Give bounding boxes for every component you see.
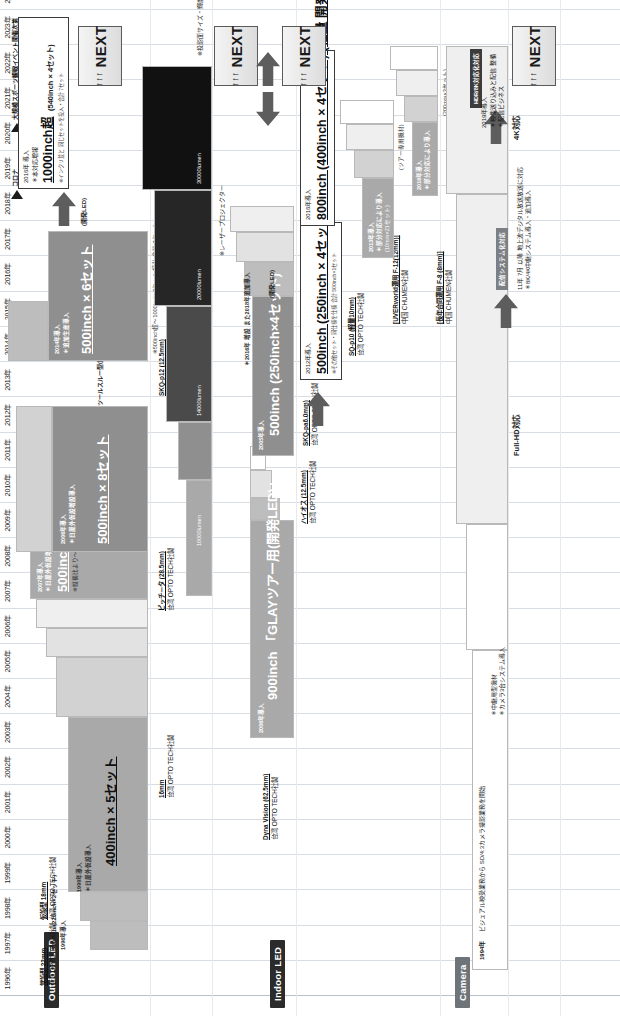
indoor-spec-p10: SQ-p10 (軽量10mm) 台湾 OPTO TECH社製 — [348, 293, 366, 356]
year-label-2000年: 2000年 — [2, 827, 12, 849]
projector-lumen-3: 20000lumen — [196, 269, 204, 300]
callout-indoor-500: 2012年導入 500inch (250inch × 4セット) (開発LED)… — [300, 222, 342, 380]
bar-indoor-500dev-c — [236, 232, 294, 262]
next-box-projector[interactable]: ↑↑↑ NEXT — [214, 26, 258, 86]
bar-outdoor-5 — [46, 628, 148, 657]
bar-outdoor-500x8-bg — [16, 406, 52, 552]
indoor-spec-dyna-vendor: 台湾 OPTO TECH社製 — [271, 774, 280, 840]
bar-outdoor-500x8-note: ＊日屋外仮設増設導入 — [69, 484, 77, 544]
indoor-spec-haios-vendor: 台湾 OPTO TECH社製 — [309, 461, 318, 524]
projector-lumen-2: 14000lumen — [196, 385, 204, 416]
year-label-2005年: 2005年 — [2, 650, 12, 672]
year-label-2016年: 2016年 — [2, 263, 12, 285]
indoor-spec-f8-vendor: 中国 CHUMEN社製 — [445, 251, 454, 324]
year-label-1997年: 1997年 — [2, 932, 12, 954]
bar-indoor-f12-d — [340, 100, 394, 124]
bar-indoor-500dev-subtitle: (開発LED) — [268, 270, 276, 298]
camera-distribution-chip: 配信システム化対応 — [496, 228, 508, 290]
next-arrows-projector-icon: ↑↑↑ — [232, 72, 240, 87]
bar-indoor-f8-note: ＊部分対応により導入 — [424, 130, 432, 190]
row-separator-4 — [508, 0, 509, 1016]
year-label-2024年: 2024年 — [2, 0, 12, 3]
bar-projector-10000 — [178, 422, 212, 480]
callout-indoor-500-year: 2012年導入 — [304, 228, 313, 374]
bar-indoor-f12-tiny: (10mm×21セット) — [384, 205, 392, 252]
next-box-outdoor[interactable]: ↑↑↑ NEXT — [78, 26, 122, 86]
year-label-2017年: 2017年 — [2, 228, 12, 250]
next-arrows-indoor-icon: ↑↑↑ — [300, 72, 308, 87]
indoor-spec-haios: ハイオス (12.5mm) 台湾 OPTO TECH社製 — [300, 461, 318, 524]
next-label-camera: NEXT — [526, 25, 543, 67]
bar-camera-hd — [466, 524, 508, 650]
camera-4k-label: 4K対応 — [512, 116, 523, 140]
bar-outdoor-500x6-title: 500inch × 6セット — [76, 245, 95, 354]
bar-outdoor-1-label: 350inch (220inch×2セット) — [50, 875, 58, 950]
bar-outdoor-400-year: 1999年導入 — [76, 862, 84, 892]
bar-indoor-f8-year: 2016年導入 — [416, 160, 424, 190]
bar-outdoor-400-title: 400inch × 5セット — [100, 757, 119, 866]
indoor-spec-p10-title: SQ-p10 (軽量10mm) — [348, 293, 357, 356]
row-separator-5 — [560, 0, 561, 1016]
indoor-spec-f12: [UVERworld運用 F-12(12mm)] 中国 CHUMEN社製 — [392, 235, 410, 324]
camera-note-sd: ＊中継用型機材 ＊カメラ3台システム導入 — [490, 647, 507, 716]
grid-line-2024年 — [0, 9, 620, 10]
roadmap-page: 1996年1997年1998年1999年2000年2001年2002年2003年… — [0, 0, 620, 1016]
indoor-spec-f8: [長年合同運用 F-8 (8mm)] 中国 CHUMEN社製 — [436, 251, 454, 324]
year-label-2012年: 2012年 — [2, 404, 12, 426]
year-label-1996年: 1996年 — [2, 967, 12, 989]
bar-indoor-f12-c — [346, 124, 394, 150]
callout-camera-2019-note2: ＊配信ビジネス — [497, 32, 506, 128]
callout-1000inch-sub: (540inch × 4セット) — [46, 44, 57, 111]
bar-outdoor-500x8-year: 2006年導入 — [60, 514, 68, 544]
bar-outdoor-500x6-subtitle: (開発LED) — [80, 198, 88, 226]
bar-projector-14000 — [166, 306, 212, 422]
category-camera: Camera — [455, 957, 470, 1008]
next-box-indoor[interactable]: ↑↑↑ NEXT — [282, 26, 326, 86]
bar-outdoor-500x8-title: 500inch × 8セット — [92, 435, 111, 544]
callout-indoor-500-tiny: ※その他セット・同仕様を仕様 合計 500inch×1セット — [331, 228, 339, 374]
bar-indoor-500dev-d — [230, 206, 294, 232]
next-arrows-camera-icon: ↑↑↑ — [530, 72, 538, 87]
year-label-2010年: 2010年 — [2, 474, 12, 496]
callout-camera-2019-note: ＊映像送り込みと配信 整備 — [489, 32, 498, 128]
grid-line-1997年 — [0, 960, 620, 961]
projector-lumen-1: 10000lumen — [196, 515, 204, 546]
projector-lumen-4: 30000lumen — [196, 153, 204, 184]
indoor-spec-haios-title: ハイオス (12.5mm) — [300, 461, 309, 524]
year-label-2007年: 2007年 — [2, 580, 12, 602]
year-label-2003年: 2003年 — [2, 721, 12, 743]
callout-camera-2019-year: 2019年導入 — [480, 32, 489, 128]
bar-outdoor-1-year: 1996年導入 — [60, 920, 68, 950]
roadmap-canvas: 1996年1997年1998年1999年2000年2001年2002年2003年… — [0, 0, 620, 1016]
camera-origin-year: 1994年 — [478, 941, 486, 960]
bar-outdoor-4 — [56, 657, 148, 717]
bar-indoor-f12-note: ＊部分対応により導入 — [376, 192, 384, 252]
outdoor-spec-16mm: 16mm 台湾 OPTO TECH社製 — [158, 735, 176, 798]
callout-indoor-500-title: 500inch (250inch × 4セット) (開発LED) — [313, 228, 331, 374]
year-label-2004年: 2004年 — [2, 686, 12, 708]
next-label-outdoor: NEXT — [92, 25, 109, 67]
year-label-2008年: 2008年 — [2, 545, 12, 567]
bar-indoor-500dev-year: 2005年導入 — [258, 420, 266, 450]
bar-indoor-f8-d — [390, 46, 438, 70]
year-label-1998年: 1998年 — [2, 897, 12, 919]
outdoor-spec-p28-title: ピッチ－タ (28.5mm) — [158, 548, 167, 611]
bar-outdoor-500x6-top — [8, 301, 48, 361]
next-box-camera[interactable]: ↑↑↑ NEXT — [512, 26, 556, 86]
indoor-spec-f12-vendor: 中国 CHUMEN社製 — [401, 235, 410, 324]
arrow-indoor-back-icon — [256, 92, 280, 126]
year-label-2011年: 2011年 — [2, 439, 12, 460]
callout-1000inch-note: ＊本対応増報 — [31, 23, 40, 183]
bar-outdoor-400-note: ＊日屋外仮設導入 — [85, 844, 93, 892]
outdoor-spec-p28: ピッチ－タ (28.5mm) 台湾 OPTO TECH社製 — [158, 548, 176, 611]
year-label-1999年: 1999年 — [2, 862, 12, 884]
outdoor-spec-p28-vendor: 台湾 OPTO TECH社製 — [167, 548, 176, 611]
year-label-2001年: 2001年 — [2, 791, 12, 813]
outdoor-spec-22mm-title: 常設型 22mm — [40, 923, 49, 986]
next-arrows-outdoor-icon: ↑↑↑ — [96, 72, 104, 87]
callout-1000inch-year: 2016年 導入 — [22, 23, 31, 183]
year-label-2002年: 2002年 — [2, 756, 12, 778]
next-label-indoor: NEXT — [296, 25, 313, 67]
bar-indoor-f12-tiny2: (ツアー専用機材) — [398, 124, 406, 170]
bar-indoor-f8-c — [396, 70, 438, 96]
